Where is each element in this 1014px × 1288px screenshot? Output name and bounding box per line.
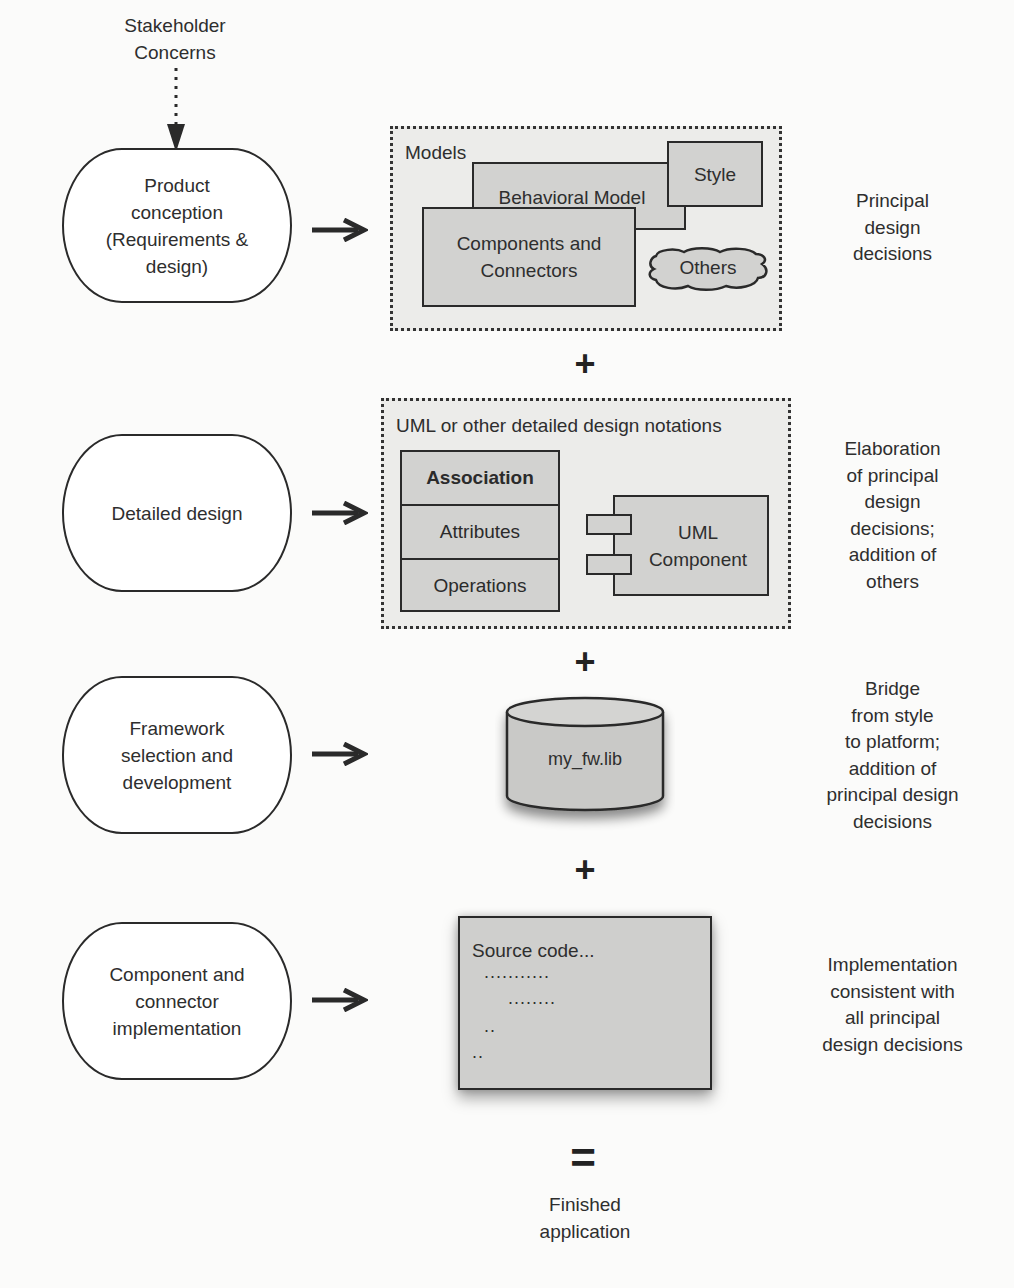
right-arrow-icon: [310, 501, 368, 525]
others-label: Others: [646, 257, 770, 279]
stage-label: Detailed design: [112, 500, 243, 527]
models-title: Models: [405, 142, 466, 164]
stage-label: Framework selection and development: [121, 715, 233, 796]
class-box: Association Attributes Operations: [400, 450, 560, 612]
stage-component-implementation: Component and connector implementation: [62, 922, 292, 1080]
source-code-title: Source code...: [472, 940, 595, 962]
note-elaboration: Elaboration of principal design decision…: [800, 436, 985, 595]
components-connectors-box: Components and Connectors: [422, 207, 636, 307]
style-label: Style: [694, 161, 736, 188]
class-attributes: Attributes: [402, 506, 558, 560]
note-implementation: Implementation consistent with all princ…: [800, 952, 985, 1058]
code-line: ..: [472, 1042, 484, 1063]
note-principal-design-decisions: Principal design decisions: [800, 188, 985, 268]
code-line: ...........: [484, 962, 550, 983]
library-label: my_fw.lib: [507, 749, 663, 770]
stage-product-conception: Product conception (Requirements & desig…: [62, 148, 292, 303]
plus-operator: +: [555, 852, 615, 888]
stage-label: Product conception (Requirements & desig…: [106, 172, 249, 280]
note-bridge: Bridge from style to platform; addition …: [800, 676, 985, 835]
uml-component-label: UML Component: [649, 519, 747, 573]
right-arrow-icon: [310, 988, 368, 1012]
source-code-box: Source code... ........... ........ .. .…: [458, 916, 712, 1090]
style-box: Style: [667, 141, 763, 207]
class-name: Association: [402, 452, 558, 506]
finished-application-label: Finished application: [505, 1191, 665, 1245]
uml-notations-title: UML or other detailed design notations: [396, 415, 722, 437]
components-connectors-label: Components and Connectors: [457, 230, 602, 284]
stakeholder-concerns-label: Stakeholder Concerns: [100, 12, 250, 66]
stage-framework-selection: Framework selection and development: [62, 676, 292, 834]
right-arrow-icon: [310, 218, 368, 242]
plus-operator: +: [555, 346, 615, 382]
right-arrow-icon: [310, 742, 368, 766]
dotted-arrow-icon: [165, 66, 187, 156]
stage-label: Component and connector implementation: [109, 961, 244, 1042]
plus-operator: +: [555, 644, 615, 680]
stage-detailed-design: Detailed design: [62, 434, 292, 592]
code-line: ........: [508, 988, 556, 1009]
component-port-icon: [586, 514, 632, 535]
uml-component-box: UML Component: [613, 495, 769, 596]
equals-operator: =: [553, 1140, 613, 1176]
class-operations: Operations: [402, 560, 558, 612]
code-line: ..: [484, 1016, 496, 1037]
component-port-icon: [586, 554, 632, 575]
